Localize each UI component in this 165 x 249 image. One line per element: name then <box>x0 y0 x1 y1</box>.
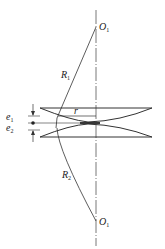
label-o1-top: O1 <box>99 21 109 33</box>
e2-arrowhead <box>31 130 35 135</box>
e1-arrowhead <box>31 111 35 116</box>
label-e2: e2 <box>6 122 13 134</box>
lens-geometry-diagram: O1 R1 r e1 e2 R2 O1 <box>0 0 165 249</box>
label-r1: R1 <box>60 69 70 81</box>
label-r2: R2 <box>61 169 71 181</box>
label-r: r <box>74 105 78 116</box>
center-dot <box>31 121 35 125</box>
label-o1-bottom: O1 <box>99 216 109 228</box>
